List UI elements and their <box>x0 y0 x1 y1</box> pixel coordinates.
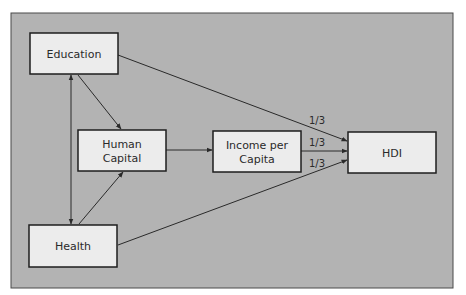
node-label-income-per-capita: Capita <box>239 153 275 166</box>
edge-labels-layer: 1/31/31/3 <box>309 115 325 169</box>
node-label-education: Education <box>47 48 102 61</box>
weight-label-income-per-capita: 1/3 <box>309 137 325 148</box>
node-label-human-capital: Human <box>102 138 142 151</box>
node-education: Education <box>30 33 118 74</box>
hdi-diagram: EducationHumanCapitalIncome perCapitaHDI… <box>0 0 466 295</box>
node-label-income-per-capita: Income per <box>226 139 289 152</box>
node-label-human-capital: Capital <box>103 152 142 165</box>
node-label-hdi: HDI <box>382 147 402 160</box>
node-human-capital: HumanCapital <box>78 130 166 171</box>
node-label-health: Health <box>55 240 91 253</box>
node-hdi: HDI <box>348 132 436 173</box>
weight-label-health: 1/3 <box>309 158 325 169</box>
weight-label-education: 1/3 <box>309 115 325 126</box>
node-health: Health <box>29 225 117 267</box>
node-box-human-capital <box>78 130 166 171</box>
node-box-income-per-capita <box>213 131 301 172</box>
node-income-per-capita: Income perCapita <box>213 131 301 172</box>
